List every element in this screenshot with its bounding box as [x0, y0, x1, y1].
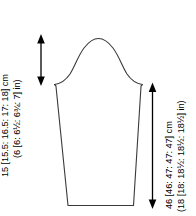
sleeve-length-label-cm: 46 [46: 47: 47: 47] cm: [165, 121, 174, 209]
cap-height-arrow-head-bottom: [37, 77, 45, 87]
cap-height-label-in: (6 [6: 6½: 6¾: 7] in): [13, 79, 22, 158]
cap-height-arrow: [37, 34, 45, 86]
sleeve-length-arrow: [149, 83, 157, 210]
cap-height-arrow-head-top: [37, 34, 45, 44]
sleeve-length-arrow-head-top: [149, 83, 157, 93]
sleeve-length-arrow-head-bottom: [149, 200, 157, 210]
sleeve-schematic-diagram: 15 [15.5: 16.5: 17: 18] cm (6 [6: 6½: 6¾…: [0, 0, 196, 216]
sleeve-length-label-in: (18 [18: 18½: 18½: 18½] in): [177, 100, 186, 212]
cap-height-label-cm: 15 [15.5: 16.5: 17: 18] cm: [1, 74, 10, 177]
sleeve-outline-path: [55, 39, 143, 206]
